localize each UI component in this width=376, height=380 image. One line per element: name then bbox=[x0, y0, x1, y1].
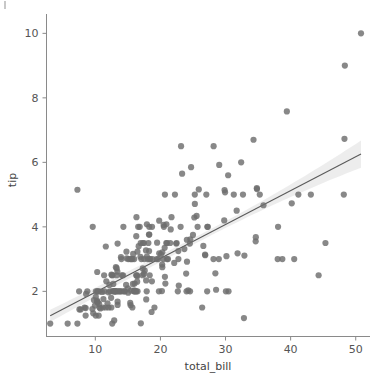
scatter-point bbox=[47, 321, 53, 327]
scatter-point bbox=[203, 192, 209, 198]
scatter-point bbox=[133, 272, 139, 278]
scatter-point bbox=[123, 282, 129, 288]
scatter-point bbox=[253, 234, 259, 240]
scatter-point bbox=[135, 224, 141, 230]
scatter-point bbox=[295, 192, 301, 198]
y-tick-label: 10 bbox=[25, 27, 39, 40]
scatter-point bbox=[134, 249, 140, 255]
scatter-point bbox=[173, 241, 179, 247]
scatter-point bbox=[284, 108, 290, 114]
scatter-point bbox=[190, 232, 196, 238]
scatter-point bbox=[148, 309, 154, 315]
scatter-point bbox=[291, 256, 297, 262]
scatter-point bbox=[90, 224, 96, 230]
scatter-point bbox=[83, 291, 89, 297]
scatter-point bbox=[114, 302, 120, 308]
scatter-point bbox=[168, 226, 174, 232]
scatter-point bbox=[195, 224, 201, 230]
scatter-point bbox=[162, 192, 168, 198]
scatter-point bbox=[146, 248, 152, 254]
scatter-point bbox=[192, 192, 198, 198]
scatter-point bbox=[184, 259, 190, 265]
scatter-point bbox=[231, 192, 237, 198]
scatter-point bbox=[103, 243, 109, 249]
scatter-point bbox=[139, 272, 145, 278]
scatter-point bbox=[114, 265, 120, 271]
x-tick-label: 30 bbox=[219, 343, 233, 356]
scatter-point bbox=[156, 218, 162, 224]
scatter-point bbox=[134, 279, 140, 285]
scatter-point bbox=[250, 137, 256, 143]
scatter-point bbox=[97, 305, 103, 311]
scatter-point bbox=[143, 277, 149, 283]
x-tick-label: 10 bbox=[88, 343, 102, 356]
scatter-point bbox=[181, 246, 187, 252]
scatter-point bbox=[109, 321, 115, 327]
scatter-point bbox=[234, 250, 240, 256]
scatter-point bbox=[106, 282, 112, 288]
scatter-point bbox=[162, 281, 168, 287]
scatter-point bbox=[160, 256, 166, 262]
scatter-point bbox=[216, 162, 222, 168]
scatter-point bbox=[241, 252, 247, 258]
scatter-point bbox=[144, 288, 150, 294]
corner-artifact bbox=[4, 1, 6, 9]
scatter-point bbox=[149, 224, 155, 230]
scatter-point bbox=[108, 295, 114, 301]
scatter-point bbox=[149, 256, 155, 262]
y-tick-label: 8 bbox=[32, 92, 39, 105]
scatter-point bbox=[93, 312, 99, 318]
scatter-point bbox=[179, 171, 185, 177]
scatter-point bbox=[341, 136, 347, 142]
scatter-point bbox=[128, 256, 134, 262]
scatter-point bbox=[260, 202, 266, 208]
scatter-point bbox=[123, 249, 129, 255]
scatter-point bbox=[141, 256, 147, 262]
scatter-point bbox=[316, 272, 322, 278]
scatter-point bbox=[121, 288, 127, 294]
scatter-point bbox=[171, 260, 177, 266]
scatter-point bbox=[118, 256, 124, 262]
scatter-point bbox=[225, 172, 231, 178]
x-tick-label: 50 bbox=[349, 343, 363, 356]
scatter-point bbox=[199, 304, 205, 310]
scatter-point bbox=[192, 201, 198, 207]
scatter-point bbox=[83, 312, 89, 318]
scatter-point bbox=[114, 272, 120, 278]
scatter-point bbox=[93, 288, 99, 294]
y-tick-label: 6 bbox=[32, 156, 39, 169]
scatter-point bbox=[172, 192, 178, 198]
scatter-point bbox=[221, 187, 227, 193]
scatter-point bbox=[129, 304, 135, 310]
scatter-point bbox=[200, 243, 206, 249]
scatter-point bbox=[223, 253, 229, 259]
scatter-point bbox=[76, 288, 82, 294]
scatter-point bbox=[159, 261, 165, 267]
scatter-point bbox=[133, 214, 139, 220]
scatter-point bbox=[210, 256, 216, 262]
x-axis-title: total_bill bbox=[185, 360, 232, 373]
scatter-point bbox=[308, 192, 314, 198]
scatter-point bbox=[138, 320, 144, 326]
scatter-point bbox=[178, 224, 184, 230]
scatter-point bbox=[147, 272, 153, 278]
y-axis-title: tip bbox=[6, 173, 19, 187]
scatter-point bbox=[342, 63, 348, 69]
scatter-point bbox=[221, 217, 227, 223]
scatter-point bbox=[156, 288, 162, 294]
scatter-point bbox=[154, 240, 160, 246]
scatter-point bbox=[202, 251, 208, 257]
scatter-point bbox=[175, 248, 181, 254]
scatter-point bbox=[183, 271, 189, 277]
scatter-point bbox=[143, 296, 149, 302]
scatter-point bbox=[234, 208, 240, 214]
scatter-point bbox=[196, 186, 202, 192]
scatter-point bbox=[241, 315, 247, 321]
scatter-point bbox=[161, 224, 167, 230]
scatter-point bbox=[101, 272, 107, 278]
scatter-point bbox=[120, 224, 126, 230]
regression-plot-figure: 1020304050246810 total_bill tip bbox=[0, 0, 376, 380]
scatter-point bbox=[149, 278, 155, 284]
scatter-point bbox=[213, 287, 219, 293]
scatter-point bbox=[238, 159, 244, 165]
